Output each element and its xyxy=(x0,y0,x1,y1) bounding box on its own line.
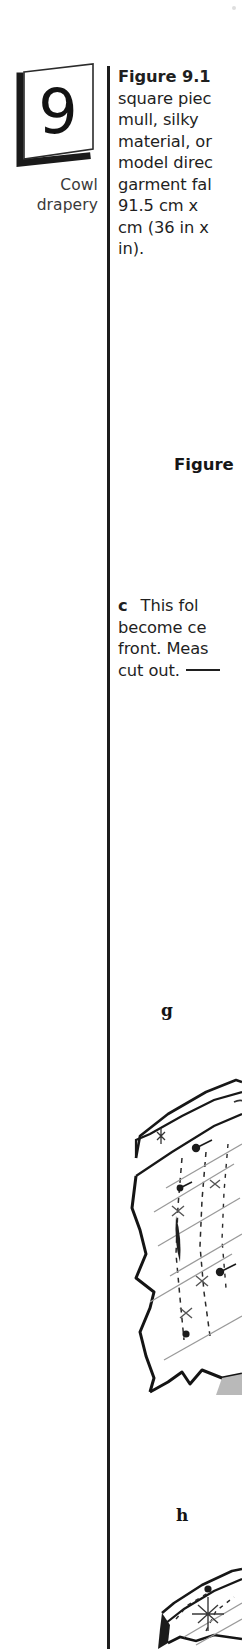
step-letter-h: h xyxy=(176,1505,188,1525)
step-letter-g: g xyxy=(161,1000,173,1020)
page-crop: 9 Cowl drapery Figure 9.1 square piec mu… xyxy=(0,0,242,1649)
step-c-marker: c xyxy=(118,596,128,615)
figure-intro-line: cm (36 in x xyxy=(118,217,213,239)
step-c-last-line: cut out. xyxy=(118,660,220,682)
draped-bodice-illustration xyxy=(110,1040,242,1395)
chapter-label-line2: drapery xyxy=(0,195,98,215)
chapter-number-text: 9 xyxy=(38,75,77,148)
chapter-side-label: Cowl drapery xyxy=(0,175,98,216)
leader-line xyxy=(186,669,220,671)
step-c-paragraph: cThis fol become ce front. Meas cut out. xyxy=(118,595,220,681)
step-c-line: cut out. xyxy=(118,661,180,680)
figure-intro-line: garment fal xyxy=(118,174,213,196)
figure-intro-line: Figure 9.1 xyxy=(118,66,213,88)
step-c-line: front. Meas xyxy=(118,638,220,660)
step-c-line: This fol xyxy=(141,596,199,615)
draped-bodice-detail-illustration xyxy=(110,1545,242,1649)
column-divider-rule xyxy=(107,66,110,1649)
figure-intro-paragraph: Figure 9.1 square piec mull, silky mater… xyxy=(118,66,213,260)
figure-caption: Figure xyxy=(174,455,234,474)
scan-speck xyxy=(232,6,236,10)
chapter-label-line1: Cowl xyxy=(0,175,98,195)
figure-intro-line: model direc xyxy=(118,152,213,174)
step-c-first-line: cThis fol xyxy=(118,595,220,617)
figure-intro-line: in). xyxy=(118,238,213,260)
step-c-line: become ce xyxy=(118,617,220,639)
figure-intro-line: mull, silky xyxy=(118,109,213,131)
chapter-number-marker: 9 xyxy=(14,60,96,172)
figure-intro-line: material, or xyxy=(118,131,213,153)
figure-intro-line: square piec xyxy=(118,88,213,110)
figure-intro-line: 91.5 cm x xyxy=(118,195,213,217)
